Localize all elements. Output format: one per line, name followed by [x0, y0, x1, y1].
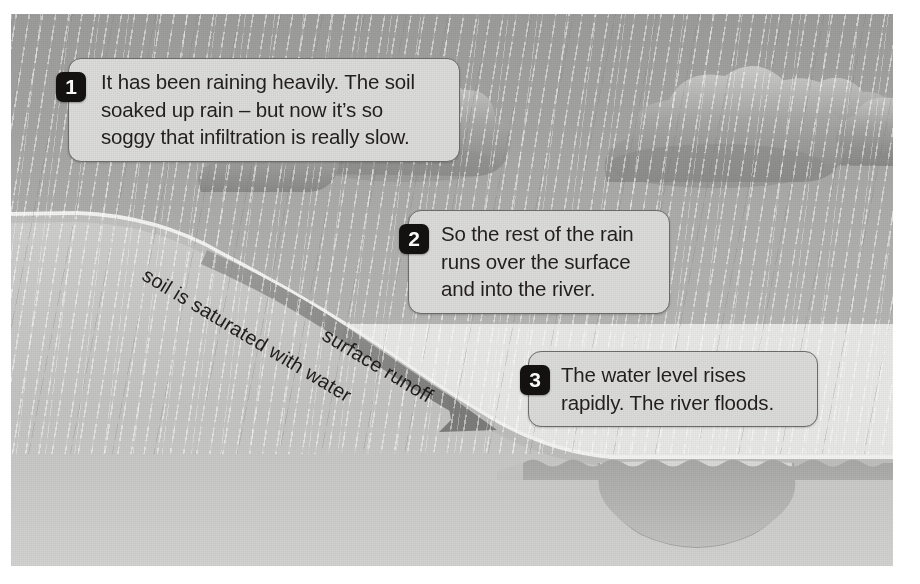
- callout-box-3: The water level rises rapidly. The river…: [528, 351, 818, 427]
- callout-2-line-2: runs over the surface: [441, 248, 656, 276]
- callout-badge-3: 3: [520, 365, 550, 395]
- illustration-panel: soil is saturated with water surface run…: [11, 14, 893, 566]
- callout-1-line-3: soggy that infiltration is really slow.: [101, 123, 446, 151]
- figure-canvas: soil is saturated with water surface run…: [0, 0, 920, 584]
- callout-2-line-3: and into the river.: [441, 275, 656, 303]
- callout-3-line-2: rapidly. The river floods.: [561, 389, 804, 417]
- callout-2-line-1: So the rest of the rain: [441, 220, 656, 248]
- callout-box-1: It has been raining heavily. The soil so…: [68, 58, 460, 162]
- callout-badge-2: 2: [399, 224, 429, 254]
- callout-1-line-1: It has been raining heavily. The soil: [101, 68, 446, 96]
- callout-box-2: So the rest of the rain runs over the su…: [408, 210, 670, 314]
- callout-3-line-1: The water level rises: [561, 361, 804, 389]
- callout-badge-1: 1: [56, 72, 86, 102]
- callout-1-line-2: soaked up rain – but now it’s so: [101, 96, 446, 124]
